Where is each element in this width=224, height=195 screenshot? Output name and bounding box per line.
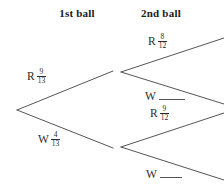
probability-fraction: 4 13 xyxy=(51,131,61,148)
branch-label-second-red-white: W xyxy=(145,90,185,102)
fraction-numerator: 9 xyxy=(162,105,168,113)
branch-line-second-red-red xyxy=(121,38,224,72)
branch-label-first-white: W 4 13 xyxy=(38,131,60,148)
branch-line-first-white xyxy=(17,110,113,148)
outcome-letter: W xyxy=(145,90,156,102)
branch-line-second-white-red xyxy=(121,113,224,147)
fraction-numerator: 9 xyxy=(39,68,45,76)
fraction-denominator: 12 xyxy=(160,113,170,122)
probability-fraction: 9 13 xyxy=(37,68,47,85)
probability-blank-field[interactable] xyxy=(159,92,185,100)
outcome-letter: R xyxy=(150,107,158,119)
fraction-numerator: 4 xyxy=(53,131,59,139)
tree-branch-lines xyxy=(0,0,224,195)
branch-label-second-white-red: R 9 12 xyxy=(150,105,169,122)
column-header-first-ball: 1st ball xyxy=(42,7,112,19)
outcome-letter: W xyxy=(38,133,49,145)
outcome-letter: R xyxy=(27,70,35,82)
fraction-denominator: 13 xyxy=(51,139,61,148)
probability-blank-field[interactable] xyxy=(160,170,182,178)
fraction-denominator: 12 xyxy=(158,41,168,50)
branch-label-second-white-white: W xyxy=(146,168,182,180)
probability-fraction: 8 12 xyxy=(158,33,168,50)
fraction-denominator: 13 xyxy=(37,76,47,85)
probability-fraction: 9 12 xyxy=(160,105,170,122)
branch-label-second-red-red: R 8 12 xyxy=(148,33,167,50)
probability-tree-diagram: 1st ball 2nd ball R 9 13 W 4 13 R 8 12 W… xyxy=(0,0,224,195)
branch-label-first-red: R 9 13 xyxy=(27,68,46,85)
outcome-letter: R xyxy=(148,35,156,47)
column-header-second-ball: 2nd ball xyxy=(126,7,196,19)
outcome-letter: W xyxy=(146,168,157,180)
fraction-numerator: 8 xyxy=(160,33,166,41)
